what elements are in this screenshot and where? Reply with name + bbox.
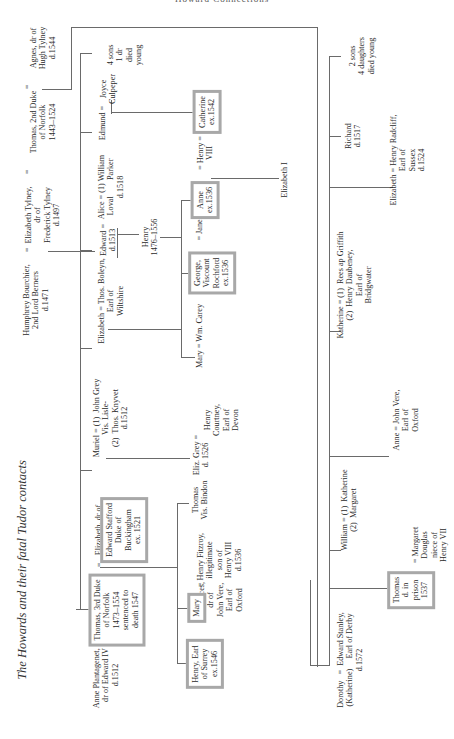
connector [111,112,195,113]
marriage-sign: = [23,170,32,175]
connector [329,456,389,457]
connector [80,348,92,349]
connector [211,178,279,179]
marriage-sign: = [23,85,32,90]
connector [48,251,95,252]
running-header: Howard Connections [175,0,305,6]
connector [329,56,330,666]
person-anne-boleyn: Anne ex.1536 [191,181,220,219]
person-mary-howard: Mary [187,593,206,623]
connector [160,237,182,238]
person-george-viscount-rochford: George, Viscount Rochford ex.1536 [188,252,236,295]
connector [310,580,311,666]
person-eliz-grey: Eliz. Grey = d. 1526 [192,435,211,475]
person-henry-earl-of-surrey: Henry, Earl of Surrey ex.1546 [186,639,224,689]
person-margaret-douglas: = Margaret Douglas niece of Henry VII [411,527,449,564]
person-muriel: Muriel = (1) John Grey Vis. Lisle- (2) T… [92,379,130,458]
person-william-howard: William = (1) Katherine (2) Margaret [340,469,359,550]
connector [329,136,341,137]
person-elizabeth-howard-boleyn: Elizabeth = Thos. Boleyn, Earl of Wiltsh… [97,258,125,344]
person-mary-boleyn: Mary = Wm. Carey [195,304,204,368]
connector [317,27,318,667]
connector [117,234,139,235]
connector [177,503,178,663]
connector [181,200,182,358]
person-henry-courtney: Henry Courtney, Earl of Devon [203,404,241,436]
person-thomas-2nd-duke-of-norfolk: Thomas, 2nd Duke of Norfolk 1443–1524 [29,91,57,154]
person-anne-plantagenet: Anne Plantagenet, = dr of Edward IV d.15… [92,642,120,709]
connector [80,53,81,609]
person-dorothy: Dorothy = Edward Stanley, (Katherine) Ea… [336,612,364,708]
person-two-sons-died-young: 2 sons 4 daughters died young [348,37,376,75]
person-four-sons-died-young: 4 sons 1 dr died young [106,45,144,66]
connector [181,357,195,358]
person-thomas-died-in-prison: Thomas d. in prison 1537 [387,571,435,609]
person-edmund-howard: Edmund = [98,106,107,140]
person-elizabeth-radcliff: Elizabeth = Henry Radcliff, Earl of Suss… [389,115,427,206]
connector [310,665,330,666]
person-richard-howard: Richard d.1517 [344,123,363,149]
person-katherine-howard-daubeney: Katherine = (1) Rees ap Griffith (2) Hen… [336,231,374,338]
connector [80,250,92,251]
marriage-sign: = [23,248,32,253]
connector [329,56,341,57]
person-jane-rochford: = Jane [195,219,204,240]
connector [80,470,92,471]
connector [177,503,189,504]
person-catherine-howard: Catherine ex.1542 [193,90,222,134]
person-joyce-culpeper: Joyce Culpeper [99,74,118,104]
diagram-title: The Howards and their fatal Tudor contac… [15,460,30,680]
person-elizabeth-i: Elizabeth I [280,162,289,198]
person-edward-stafford: Edward Stafford Duke of Buckingham ex. 1… [100,497,148,563]
person-alice: Alice = (1) William Loval Parker d.1518 [97,155,125,219]
person-thomas-viscount-bindon: Thomas Vis. Bindon [191,480,210,519]
connector [100,567,178,568]
connector [71,27,72,90]
person-henry-1476: Henry 1476–1556 [141,219,160,256]
person-thomas-3rd-duke-of-norfolk: Thomas, 3rd Duke of Norfolk 1473–1554 se… [88,573,145,646]
person-henry-viii: = Henry = VIII [196,136,215,170]
person-henry-fitzroy: = Henry Fitzroy, illegitimate son of Hen… [196,533,243,587]
connector [80,132,92,133]
connector [80,53,92,54]
person-elizabeth-tylney: Elizabeth Tylney, dr of Frederick Tylney… [24,187,62,244]
person-edward-howard: Edward = d.1513 [99,224,118,256]
marriage-sign: = [95,563,104,568]
person-humphrey-bourchier: Humphrey Bourchier, 2nd Lord Berners d.1… [22,264,50,336]
person-anne-vere: Anne = John Vere, Earl of Oxford [392,390,420,451]
connector [329,187,393,188]
connector [106,458,190,459]
connector [71,27,318,28]
person-agnes-tylney: Agnes, dr of Hugh Tylney d.1544 [29,27,57,70]
connector [329,588,389,589]
